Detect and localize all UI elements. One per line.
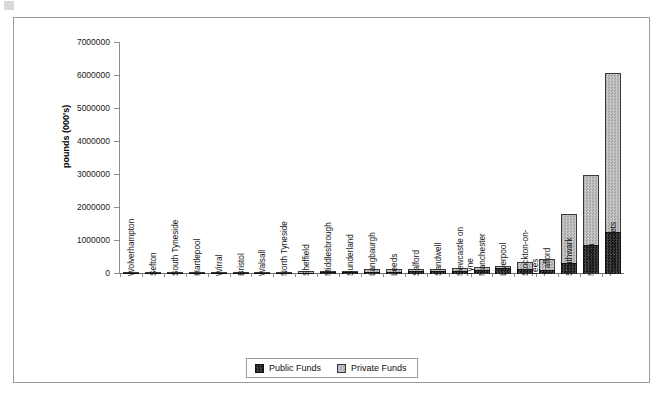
legend-label-public: Public Funds	[269, 363, 321, 373]
x-axis-tick	[142, 273, 143, 277]
x-axis-tick	[295, 273, 296, 277]
x-axis-tick	[317, 273, 318, 277]
legend-swatch-private-icon	[337, 364, 346, 373]
y-axis-tick-label: 3000000	[77, 170, 110, 179]
x-axis-tick	[230, 273, 231, 277]
x-axis-tick	[339, 273, 340, 277]
x-axis-tick	[251, 273, 252, 277]
x-axis-category-label: Sheffield	[302, 244, 312, 276]
legend-label-private: Private Funds	[351, 363, 407, 373]
x-axis-tick	[449, 273, 450, 277]
x-axis-tick	[186, 273, 187, 277]
y-axis-tick-label: 2000000	[77, 203, 110, 212]
x-axis-category-label: Hartlepool	[193, 239, 203, 276]
x-axis-category-label: South Tyneside	[171, 220, 181, 276]
chart-figure-frame: pounds (000's) 0100000020000003000000400…	[13, 17, 650, 383]
x-axis-category-label: Southwark	[565, 237, 575, 276]
y-axis-tick-label: 0	[105, 269, 110, 278]
x-axis-category-label: Wolverhampton	[127, 219, 137, 276]
y-axis-title: pounds (000's)	[61, 105, 71, 168]
x-axis-tick	[361, 273, 362, 277]
x-axis-tick	[273, 273, 274, 277]
scan-artifact	[4, 1, 14, 10]
x-axis-tick	[383, 273, 384, 277]
x-axis-category-label: Liverpool	[499, 243, 509, 276]
x-axis-tick	[580, 273, 581, 277]
legend-swatch-public-icon	[255, 364, 264, 373]
x-axis-tick	[208, 273, 209, 277]
y-axis-tick-label: 7000000	[77, 38, 110, 47]
legend-item-public-funds: Public Funds	[255, 363, 321, 373]
chart-legend: Public Funds Private Funds	[246, 358, 418, 378]
x-axis-category-label: Sefton	[149, 252, 159, 276]
legend-item-private-funds: Private Funds	[337, 363, 407, 373]
x-axis-category-label: Sandwell	[434, 243, 444, 276]
y-axis-tick-label: 4000000	[77, 137, 110, 146]
x-axis-category-label: Tower Hamlets	[609, 222, 619, 276]
y-axis-tick-label: 6000000	[77, 71, 110, 80]
x-axis-category-label: Newham	[587, 244, 597, 276]
x-axis-category-label: Stockton-on- Tees	[521, 230, 540, 276]
x-axis-category-label: Manchester	[478, 233, 488, 276]
x-axis-tick	[120, 273, 121, 277]
y-axis-tick-label: 5000000	[77, 104, 110, 113]
x-axis-category-label: Newcastle on Tyne	[456, 227, 475, 276]
x-axis-tick	[427, 273, 428, 277]
x-axis-tick	[492, 273, 493, 277]
bar-segment-private-funds	[605, 73, 621, 232]
x-axis-category-label: Walsall	[258, 250, 268, 276]
x-axis-category-label: Sunderland	[346, 234, 356, 276]
x-axis-category-label: Langbaurgh	[368, 232, 378, 276]
x-axis-tick	[558, 273, 559, 277]
x-axis-category-label: Trafford	[543, 248, 553, 276]
x-axis-tick	[602, 273, 603, 277]
x-axis-category-label: Middlesbrough	[324, 222, 334, 276]
x-axis-category-label: Leeds	[390, 254, 400, 276]
x-axis-tick	[405, 273, 406, 277]
x-axis-category-label: North Tyneside	[280, 221, 290, 276]
bar-segment-private-funds	[583, 175, 599, 245]
x-axis-category-label: Salford	[412, 250, 422, 276]
x-axis-tick	[514, 273, 515, 277]
x-axis-category-label: Bristol	[237, 253, 247, 276]
x-axis-tick	[164, 273, 165, 277]
y-axis-tick-label: 1000000	[77, 236, 110, 245]
x-axis-category-label: Wirral	[215, 255, 225, 276]
